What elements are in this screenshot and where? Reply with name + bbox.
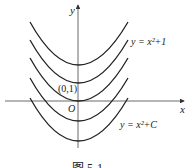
curve-c-minus-2 xyxy=(30,98,128,141)
figure-caption: 图 5-1 xyxy=(72,161,103,168)
curve-c-plus-1 xyxy=(30,40,128,83)
integral-curves-diagram: y x O (0,1) y = x²+1 y = x²+C 图 5-1 xyxy=(0,0,189,168)
point-label: (0,1) xyxy=(58,83,77,95)
curve-label-bottom: y = x²+C xyxy=(119,119,157,130)
curve-label-top: y = x²+1 xyxy=(130,36,166,47)
curve-c-minus-1 xyxy=(30,78,128,121)
curve-c-plus-2 xyxy=(30,22,128,65)
origin-label: O xyxy=(68,103,75,114)
y-axis-label: y xyxy=(69,4,75,16)
x-axis-label: x xyxy=(179,103,185,115)
